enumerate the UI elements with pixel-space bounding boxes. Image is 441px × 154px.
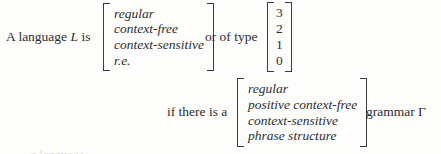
list-item: phrase structure (248, 128, 357, 144)
list-item: positive context-free (248, 97, 357, 113)
list-item: r.e. (114, 53, 204, 69)
list-item: 2 (276, 21, 283, 37)
list-item: 0 (276, 53, 283, 69)
grammar-class-bracket-group: regular positive context-free context-se… (237, 78, 367, 147)
list-item: context-free (114, 21, 204, 37)
lead-phrase: A language L is (6, 30, 90, 44)
list-item: context-sensitive (248, 113, 357, 129)
tail-text: grammar (366, 104, 415, 119)
chomsky-type-list: 3 2 1 0 (274, 2, 285, 72)
chomsky-type-bracket-group: 3 2 1 0 (267, 2, 292, 72)
list-item: 3 (276, 5, 283, 21)
language-symbol: L (70, 29, 78, 44)
grammar-symbol: Γ (418, 104, 426, 119)
grammar-class-list: regular positive context-free context-se… (244, 78, 360, 147)
math-figure: A language L is regular context-free con… (0, 0, 441, 154)
right-bracket-icon (285, 2, 292, 72)
lead-verb: is (81, 29, 90, 44)
condition-phrase: if there is a (167, 105, 227, 119)
language-class-list: regular context-free context-sensitive r… (110, 3, 207, 71)
list-item: regular (248, 81, 357, 97)
left-bracket-icon (267, 2, 274, 72)
left-bracket-icon (103, 3, 110, 71)
scan-artifact-text: a language (30, 149, 90, 154)
list-item: context-sensitive (114, 37, 204, 53)
language-class-bracket-group: regular context-free context-sensitive r… (103, 3, 214, 71)
left-bracket-icon (237, 78, 244, 147)
or-of-type-phrase: or of type (205, 30, 257, 44)
tail-phrase: grammar Γ (366, 105, 426, 119)
list-item: 1 (276, 37, 283, 53)
lead-text: A language (6, 29, 67, 44)
list-item: regular (114, 6, 204, 22)
